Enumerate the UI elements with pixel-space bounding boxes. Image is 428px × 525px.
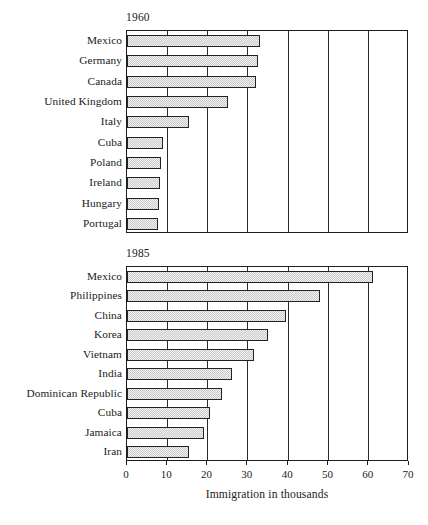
- x-tick-70: [408, 461, 409, 465]
- bar: [127, 310, 286, 322]
- category-label: Mexico: [87, 270, 122, 282]
- plot-area-1985: [126, 266, 408, 461]
- bar: [127, 446, 189, 458]
- x-tick-10: [166, 461, 167, 465]
- bar-row: [127, 329, 407, 341]
- bar: [127, 407, 210, 419]
- x-tick-label-70: 70: [403, 469, 414, 480]
- x-tick-label-60: 60: [362, 469, 373, 480]
- bar-row: [127, 427, 407, 439]
- bar: [127, 290, 320, 302]
- x-tick-40: [287, 461, 288, 465]
- x-tick-60: [367, 461, 368, 465]
- chart-panel-1985: 1985 MexicoPhilippinesChinaKoreaVietnamI…: [0, 0, 428, 525]
- bar: [127, 349, 254, 361]
- bar-row: [127, 368, 407, 380]
- x-axis-1985: 010203040506070: [126, 461, 408, 485]
- bar: [127, 388, 222, 400]
- x-tick-label-40: 40: [282, 469, 293, 480]
- x-tick-label-20: 20: [201, 469, 212, 480]
- category-label: China: [95, 309, 123, 321]
- category-labels-1985: MexicoPhilippinesChinaKoreaVietnamIndiaD…: [0, 266, 122, 461]
- chart-title-1985: 1985: [126, 247, 150, 259]
- bar-row: [127, 349, 407, 361]
- bar-row: [127, 407, 407, 419]
- x-tick-30: [246, 461, 247, 465]
- category-label: Cuba: [98, 406, 122, 418]
- bar-row: [127, 290, 407, 302]
- bar: [127, 329, 268, 341]
- bar: [127, 271, 373, 283]
- x-tick-label-50: 50: [322, 469, 333, 480]
- bar: [127, 427, 204, 439]
- category-label: Vietnam: [83, 348, 122, 360]
- bar-row: [127, 446, 407, 458]
- immigration-figure: 1960 MexicoGermanyCanadaUnited KingdomIt…: [0, 0, 428, 525]
- x-tick-label-30: 30: [241, 469, 252, 480]
- category-label: Iran: [103, 445, 122, 457]
- category-label: Jamaica: [85, 426, 122, 438]
- category-label: Dominican Republic: [26, 387, 122, 399]
- category-label: Philippines: [70, 289, 122, 301]
- bar-row: [127, 271, 407, 283]
- x-tick-0: [126, 461, 127, 465]
- x-tick-20: [206, 461, 207, 465]
- x-tick-label-10: 10: [161, 469, 172, 480]
- bar-row: [127, 388, 407, 400]
- category-label: Korea: [94, 328, 122, 340]
- x-tick-label-0: 0: [123, 469, 129, 480]
- bar-row: [127, 310, 407, 322]
- bar: [127, 368, 232, 380]
- x-axis-title: Immigration in thousands: [126, 489, 408, 501]
- category-label: India: [98, 367, 122, 379]
- x-tick-50: [327, 461, 328, 465]
